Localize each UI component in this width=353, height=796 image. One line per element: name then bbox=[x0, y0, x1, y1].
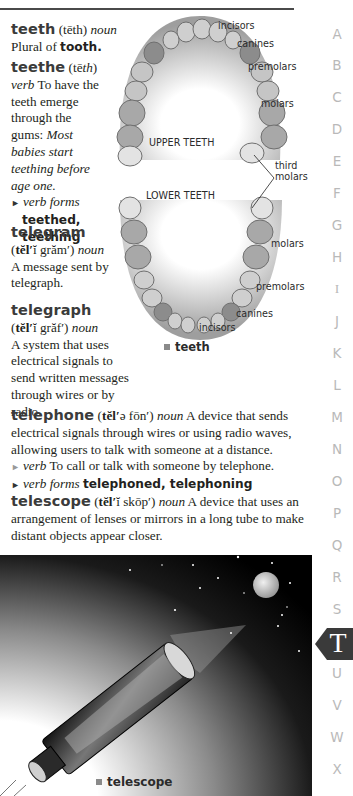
alpha-tab-g[interactable]: G bbox=[327, 217, 347, 233]
label-premolars-top: premolars bbox=[248, 61, 296, 72]
teeth-caption: teeth bbox=[164, 340, 210, 354]
alpha-tab-n[interactable]: N bbox=[327, 441, 347, 457]
pronunciation: (tēth) bbox=[69, 60, 98, 75]
arrow-icon: ► bbox=[11, 480, 20, 490]
forms-label: verb forms bbox=[23, 476, 80, 491]
alpha-tab-l[interactable]: L bbox=[327, 377, 347, 393]
caption-bullet-icon bbox=[96, 779, 102, 785]
entry-telephone: telephone (tĕl′ə fōn′) noun A device tha… bbox=[11, 407, 307, 494]
alpha-tab-m[interactable]: M bbox=[327, 409, 347, 425]
label-molars-bottom: molars bbox=[271, 238, 304, 249]
cross-reference[interactable]: tooth. bbox=[60, 40, 102, 54]
part-of-speech: noun bbox=[159, 494, 185, 509]
part-of-speech: noun bbox=[91, 22, 117, 37]
alpha-tab-w[interactable]: W bbox=[327, 729, 347, 745]
alpha-tab-e[interactable]: E bbox=[327, 153, 347, 169]
alpha-tab-f[interactable]: F bbox=[327, 185, 347, 201]
alpha-tab-s[interactable]: S bbox=[327, 601, 347, 617]
verb-definition: To call or talk with someone by telephon… bbox=[49, 458, 274, 473]
alphabet-index: A B C D E F G H I J K L M N O P Q R S T … bbox=[313, 0, 353, 796]
part-of-speech: noun bbox=[78, 242, 104, 257]
entry-telegram: telegram (tĕl′ĭ grăm′) noun A message se… bbox=[11, 224, 111, 292]
headword: telephone bbox=[11, 407, 94, 423]
part-of-speech: noun bbox=[157, 408, 183, 423]
telescope-diagram-icon bbox=[0, 555, 312, 796]
alpha-tab-d[interactable]: D bbox=[327, 121, 347, 137]
alpha-tab-c[interactable]: C bbox=[327, 89, 347, 105]
entry-teeth: teeth (tēth) noun Plural of tooth. bbox=[11, 21, 121, 56]
verb-label: verb bbox=[23, 458, 46, 473]
label-incisors-bottom: incisors bbox=[199, 322, 236, 333]
forms-label: verb forms bbox=[23, 194, 80, 209]
pronunciation: (tĕl′ə fōn′) bbox=[98, 408, 154, 423]
alpha-tab-u[interactable]: U bbox=[327, 665, 347, 681]
alpha-tab-b[interactable]: B bbox=[327, 57, 347, 73]
alpha-tab-o[interactable]: O bbox=[327, 473, 347, 489]
pronunciation: (tēth) bbox=[59, 22, 88, 37]
label-incisors-top: incisors bbox=[218, 20, 255, 31]
label-upper-teeth: UPPER TEETH bbox=[149, 137, 214, 148]
telescope-illustration bbox=[0, 555, 312, 796]
label-premolars-bottom: premolars bbox=[256, 281, 304, 292]
alpha-tab-k[interactable]: K bbox=[327, 345, 347, 361]
entry-teethe: teethe (tēth) verb To have the teeth eme… bbox=[11, 59, 103, 246]
alpha-tab-h[interactable]: H bbox=[327, 249, 347, 265]
headword: teethe bbox=[11, 59, 65, 75]
label-third-molars: thirdmolars bbox=[275, 160, 308, 182]
headword: telegram bbox=[11, 224, 86, 240]
alpha-tab-i[interactable]: I bbox=[327, 281, 347, 297]
arrow-icon: ► bbox=[11, 198, 20, 208]
definition: A message sent by telegraph. bbox=[11, 259, 109, 291]
headword: telegraph bbox=[11, 302, 92, 318]
alpha-tab-j[interactable]: J bbox=[327, 313, 347, 329]
arrow-icon: ► bbox=[11, 462, 20, 472]
pronunciation: (tĕl′ĭ grăf′) bbox=[11, 320, 69, 335]
label-canines-bottom: canines bbox=[236, 308, 273, 319]
alpha-tab-v[interactable]: V bbox=[327, 697, 347, 713]
alpha-tab-x[interactable]: X bbox=[327, 761, 347, 777]
headword: telescope bbox=[11, 493, 91, 509]
headword: teeth bbox=[11, 21, 55, 37]
pronunciation: (tĕl′ĭ skōp′) bbox=[94, 494, 155, 509]
alpha-tab-q[interactable]: Q bbox=[327, 537, 347, 553]
part-of-speech: noun bbox=[72, 320, 98, 335]
entry-telescope: telescope (tĕl′ĭ skōp′) noun A device th… bbox=[11, 493, 307, 544]
teeth-illustration: incisors canines premolars molars UPPER … bbox=[116, 10, 306, 350]
label-molars-top: molars bbox=[261, 98, 294, 109]
label-lower-teeth: LOWER TEETH bbox=[146, 190, 215, 201]
definition: Plural of bbox=[11, 39, 57, 54]
label-canines-top: canines bbox=[237, 38, 274, 49]
alpha-tab-t-active[interactable]: T bbox=[313, 628, 353, 660]
alpha-tab-a[interactable]: A bbox=[327, 26, 347, 42]
part-of-speech: verb bbox=[11, 77, 34, 92]
alpha-tab-p[interactable]: P bbox=[327, 505, 347, 521]
caption-bullet-icon bbox=[164, 344, 170, 350]
pronunciation: (tĕl′ĭ grăm′) bbox=[11, 242, 74, 257]
alpha-tab-r[interactable]: R bbox=[327, 569, 347, 585]
verb-forms: telephoned, telephoning bbox=[83, 477, 252, 491]
telescope-caption: telescope bbox=[96, 775, 172, 789]
